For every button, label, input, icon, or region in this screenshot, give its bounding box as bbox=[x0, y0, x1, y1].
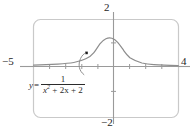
viewing-window-frame bbox=[34, 20, 179, 118]
plot-area bbox=[0, 0, 194, 133]
equation-annotation: y = 1 x2 + 2x + 2 bbox=[29, 74, 85, 96]
window-xmin-label: −5 bbox=[2, 56, 14, 67]
window-xmax-label: 4 bbox=[181, 56, 187, 67]
equation-equals-sign: = bbox=[34, 80, 39, 90]
equation-fraction: 1 x2 + 2x + 2 bbox=[41, 74, 85, 96]
equation-numerator: 1 bbox=[58, 74, 69, 84]
equation-denominator: x2 + 2x + 2 bbox=[41, 85, 85, 96]
graph-figure: −5 4 2 −2 y = 1 x2 + 2x + 2 bbox=[0, 0, 194, 133]
denominator-rest: + 2x + 2 bbox=[50, 85, 83, 95]
window-ymin-label: −2 bbox=[101, 117, 113, 128]
window-ymax-label: 2 bbox=[104, 2, 110, 13]
equation-lhs: y bbox=[29, 80, 33, 90]
